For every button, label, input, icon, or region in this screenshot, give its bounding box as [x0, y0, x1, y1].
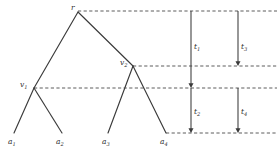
figure-canvas	[0, 0, 280, 155]
tree-figure: rv1v2a1a2a3a4t1t3t2t4	[0, 0, 280, 155]
internal-node-label-v1: v1	[20, 81, 28, 89]
time-interval-label-sub-t1: 1	[197, 46, 200, 52]
leaf-node-label-a2: a2	[56, 138, 64, 146]
leaf-node-label-sub-a3: 3	[106, 141, 109, 147]
tree-edge-v1-a2	[34, 88, 62, 133]
leaf-node-label-sub-a2: 2	[60, 141, 63, 147]
leaf-node-label-a4: a4	[160, 138, 168, 146]
time-interval-label-t3: t3	[241, 43, 247, 51]
tree-edge-v1-a1	[14, 88, 34, 133]
time-interval-label-sub-t3: 3	[244, 46, 247, 52]
tree-edge-root-v2	[78, 12, 133, 66]
time-interval-label-t2: t2	[194, 108, 200, 116]
time-interval-label-t1: t1	[194, 43, 200, 51]
internal-node-label-root: r	[71, 4, 75, 12]
tree-edges	[14, 12, 166, 133]
leaf-node-label-sub-a4: 4	[164, 141, 167, 147]
leaf-node-label-a1: a1	[8, 138, 16, 146]
tree-edge-v2-a4	[133, 66, 166, 133]
internal-node-label-sub-v2: 2	[124, 62, 127, 68]
leaf-node-label-a3: a3	[102, 138, 110, 146]
internal-node-label-sub-v1: 1	[24, 84, 27, 90]
time-interval-label-sub-t4: 4	[244, 111, 247, 117]
tree-edge-root-v1	[34, 12, 78, 88]
internal-node-label-text-root: r	[71, 3, 75, 12]
leaf-node-label-sub-a1: 1	[12, 141, 15, 147]
internal-node-label-v2: v2	[120, 59, 128, 67]
time-interval-label-t4: t4	[241, 108, 247, 116]
time-interval-label-sub-t2: 2	[197, 111, 200, 117]
tree-edge-v2-a3	[108, 66, 133, 133]
